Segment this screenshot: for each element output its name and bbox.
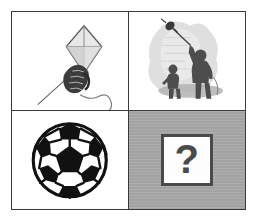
- soccer-ball-icon: [12, 111, 128, 210]
- puzzle-cell-kite-in-hand[interactable]: [12, 12, 129, 111]
- puzzle-cell-person-flying-kite[interactable]: [129, 12, 246, 111]
- person-flying-kite-icon: [129, 12, 246, 110]
- puzzle-cell-answer-placeholder[interactable]: ?: [129, 111, 246, 210]
- puzzle-cell-soccer-ball[interactable]: [12, 111, 129, 210]
- analogy-puzzle-grid: ?: [11, 11, 246, 210]
- question-mark-icon: ?: [175, 139, 199, 179]
- kite-in-hand-icon: [12, 12, 128, 110]
- answer-box[interactable]: ?: [161, 134, 213, 186]
